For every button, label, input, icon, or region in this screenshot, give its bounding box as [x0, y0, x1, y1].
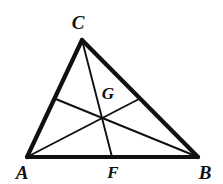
side-CB-line	[82, 40, 198, 157]
median-BD-line	[55, 99, 199, 158]
vertex-label-C: C	[72, 13, 85, 32]
median-AE-line	[27, 99, 140, 158]
geometry-figure: C G A F B	[0, 0, 223, 184]
side-AC-line	[27, 40, 82, 157]
vertex-label-A: A	[16, 163, 29, 182]
centroid-label-G: G	[102, 85, 114, 102]
vertex-label-B: B	[199, 163, 212, 182]
foot-label-F: F	[107, 164, 118, 181]
